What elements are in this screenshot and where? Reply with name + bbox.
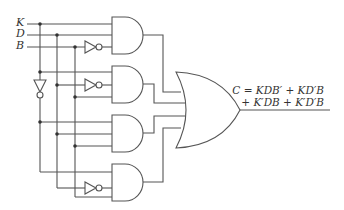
input-label-b: B (16, 39, 24, 52)
and-gate-3 (112, 115, 143, 152)
output-expression-line2: + K′DB + K′D′B (232, 96, 324, 108)
inverter-d-and4 (85, 182, 102, 194)
inverter-b (85, 41, 102, 53)
and4-input-wires (40, 172, 112, 197)
and3-input-wires (40, 122, 112, 146)
output-expression-line1: C = KDB′ + KD′B (232, 84, 324, 96)
and-gate-2 (112, 66, 143, 103)
or-gate (176, 72, 240, 148)
and-gate-1 (112, 17, 143, 54)
output-expression: C = KDB′ + KD′B + K′DB + K′D′B (232, 84, 324, 108)
logic-circuit-diagram: K D B C = KDB′ + KD′B + K′DB + K′D′B (0, 0, 344, 210)
and-gate-4 (112, 164, 143, 201)
or-input-wires (143, 35, 185, 182)
inverter-k (34, 80, 46, 98)
inverter-d-and2 (85, 79, 102, 91)
